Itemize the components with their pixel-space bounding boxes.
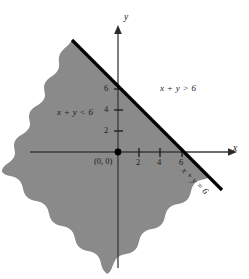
y-axis-arrowhead — [114, 25, 122, 34]
y-axis-label: y — [124, 13, 128, 23]
x-tick-label-4: 4 — [157, 158, 161, 167]
y-tick-label-4: 4 — [104, 105, 108, 114]
label-less-than-region: x + y < 6 — [57, 108, 93, 117]
origin-label: (0, 0) — [94, 157, 112, 166]
origin-point — [115, 149, 122, 156]
x-axis-label: x — [233, 144, 237, 154]
y-tick-label-6: 6 — [104, 84, 108, 93]
inequality-graph-figure: x + y > 6 x + y < 6 x + y = 6 y x (0, 0)… — [0, 0, 249, 279]
x-tick-label-2: 2 — [136, 158, 140, 167]
label-greater-than-region: x + y > 6 — [160, 84, 196, 93]
y-tick-label-2: 2 — [104, 126, 108, 135]
graph-canvas — [0, 0, 249, 279]
x-tick-label-6: 6 — [179, 158, 183, 167]
